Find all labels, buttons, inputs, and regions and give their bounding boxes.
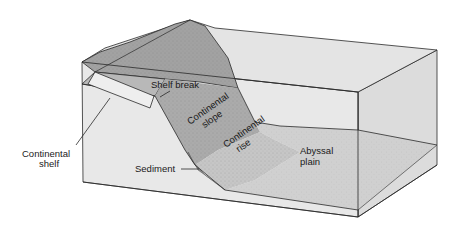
label-abyssal-plain-line1: Abyssal [300, 145, 333, 156]
continental-margin-diagram: Shelf break Continental slope Continenta… [0, 0, 453, 230]
label-abyssal-plain-line2: plain [300, 156, 320, 167]
label-continental-shelf-line2: shelf [39, 158, 59, 169]
label-shelf-break: Shelf break [151, 79, 199, 90]
label-sediment: Sediment [135, 163, 175, 174]
